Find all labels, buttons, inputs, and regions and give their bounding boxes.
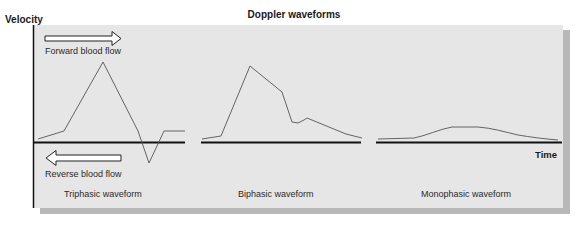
reverse-arrow-icon — [46, 151, 121, 166]
monophasic-trace — [378, 127, 558, 140]
forward-arrow-icon — [45, 32, 121, 46]
forward-flow-label: Forward blood flow — [45, 46, 121, 56]
reverse-flow-label: Reverse blood flow — [45, 169, 122, 179]
biphasic-label: Biphasic waveform — [238, 189, 314, 199]
monophasic-label: Monophasic waveform — [421, 189, 511, 199]
biphasic-trace — [202, 66, 362, 139]
triphasic-label: Triphasic waveform — [64, 189, 142, 199]
triphasic-trace — [38, 62, 185, 163]
x-axis-label: Time — [535, 149, 557, 160]
